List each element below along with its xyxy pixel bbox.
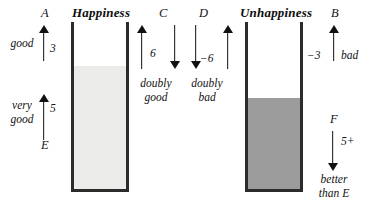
annotation-f-value: 5+ — [341, 135, 355, 147]
annotation-a-word: good — [8, 37, 36, 49]
point-label-c: C — [159, 7, 167, 21]
annotation-e-word-line1: very — [6, 99, 38, 111]
happiness-fill-level — [74, 66, 126, 189]
happiness-title: Happiness — [72, 5, 130, 21]
annotation-c-value: 6 — [150, 47, 156, 59]
unhappiness-title: Unhappiness — [240, 5, 312, 21]
annotation-d-value: −6 — [200, 52, 214, 64]
point-label-d: D — [199, 7, 208, 21]
point-label-f: F — [330, 113, 338, 127]
point-label-b: B — [331, 7, 339, 21]
arrow-f-down — [327, 131, 338, 171]
happiness-vessel — [71, 22, 129, 192]
point-label-a: A — [41, 7, 49, 21]
annotation-d-word-line2: bad — [186, 91, 228, 103]
annotation-b-value: −3 — [307, 49, 321, 61]
arrow-a-up — [38, 25, 49, 61]
annotation-c-word-line1: doubly — [135, 77, 177, 89]
arrow-d-up — [222, 25, 233, 69]
happiness-vessel-base — [71, 189, 129, 192]
annotation-b-word: bad — [341, 49, 358, 61]
annotation-d-word-line1: doubly — [186, 77, 228, 89]
arrow-b-up — [328, 25, 339, 61]
unhappiness-fill-level — [248, 98, 300, 189]
annotation-e-value: 5 — [50, 102, 56, 114]
annotation-f-word-line2: than E — [310, 187, 358, 199]
unhappiness-vessel-right-wall — [300, 22, 303, 192]
point-label-e: E — [41, 139, 49, 153]
annotation-f-word-line1: better — [310, 173, 358, 185]
arrow-c-up — [136, 25, 147, 69]
arrow-c-down — [169, 25, 180, 69]
annotation-e-word-line2: good — [6, 113, 38, 125]
unhappiness-vessel — [245, 22, 303, 192]
diagram-canvas: Happiness Unhappiness A good 3 very good… — [0, 0, 372, 204]
unhappiness-vessel-base — [245, 189, 303, 192]
happiness-vessel-right-wall — [126, 22, 129, 192]
annotation-a-value: 3 — [50, 42, 56, 54]
annotation-c-word-line2: good — [135, 91, 177, 103]
arrow-e-up — [38, 94, 49, 140]
